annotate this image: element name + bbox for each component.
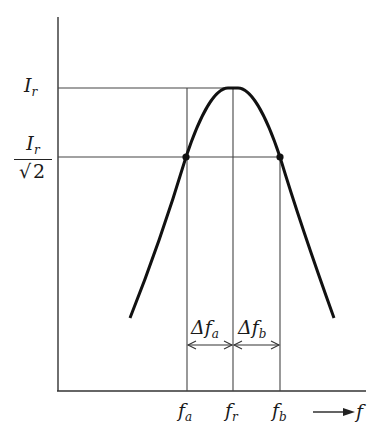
- axis-symbol: f: [356, 400, 363, 422]
- dfa-subscript: a: [212, 327, 219, 341]
- fraction-denominator: √2: [14, 160, 52, 181]
- sqrt-icon: √: [19, 160, 31, 182]
- dfa-symbol: Δf: [191, 316, 212, 338]
- dfb-symbol: Δf: [238, 316, 259, 338]
- label-fa: fa: [178, 401, 192, 423]
- fr-subscript: r: [232, 410, 238, 424]
- delta-fa-arrow: [188, 341, 232, 349]
- frequency-arrow-icon: [313, 408, 355, 416]
- fraction-numerator: Ir: [14, 134, 52, 159]
- den-value: 2: [31, 159, 47, 182]
- label-fr: fr: [225, 401, 238, 423]
- dfb-subscript: b: [259, 327, 267, 341]
- label-fb: fb: [272, 401, 287, 423]
- fb-symbol: f: [272, 399, 279, 421]
- resonance-diagram: [0, 0, 391, 446]
- half-power-point-b: [276, 153, 283, 160]
- fb-subscript: b: [279, 410, 287, 424]
- label-delta-fa: Δfa: [191, 318, 219, 340]
- peak-subscript: r: [32, 85, 38, 99]
- label-delta-fb: Δfb: [238, 318, 266, 340]
- resonance-curve: [130, 88, 334, 318]
- fa-subscript: a: [185, 410, 192, 424]
- num-symbol: I: [26, 132, 34, 154]
- label-peak-current: Ir: [24, 76, 37, 98]
- fr-symbol: f: [225, 399, 232, 421]
- label-frequency-axis: f: [356, 402, 363, 421]
- num-subscript: r: [34, 143, 40, 157]
- delta-fb-arrow: [234, 341, 279, 349]
- peak-symbol: I: [24, 74, 32, 96]
- fa-symbol: f: [178, 399, 185, 421]
- half-power-point-a: [182, 153, 189, 160]
- label-half-power-current: Ir √2: [14, 134, 52, 181]
